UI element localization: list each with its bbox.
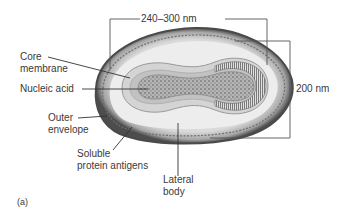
- label-soluble-protein-antigens-line1: Soluble: [77, 148, 148, 160]
- label-core-membrane-line1: Core: [20, 51, 68, 63]
- label-outer-envelope-line2: envelope: [48, 124, 89, 136]
- label-nucleic-acid: Nucleic acid: [20, 83, 74, 95]
- label-lateral-body-line1: Lateral: [163, 174, 194, 186]
- label-outer-envelope-line1: Outer: [48, 112, 89, 124]
- label-core-membrane-line2: membrane: [20, 63, 68, 75]
- label-lateral-body-line2: body: [163, 186, 194, 198]
- panel-label: (a): [17, 196, 28, 208]
- label-core-membrane: Core membrane: [20, 51, 68, 75]
- label-outer-envelope: Outer envelope: [48, 112, 89, 136]
- width-dimension-label: 200 nm: [296, 83, 329, 95]
- label-soluble-protein-antigens-line2: protein antigens: [77, 160, 148, 172]
- label-soluble-protein-antigens: Soluble protein antigens: [77, 148, 148, 172]
- label-lateral-body: Lateral body: [163, 174, 194, 198]
- length-dimension-label: 240–300 nm: [141, 13, 197, 25]
